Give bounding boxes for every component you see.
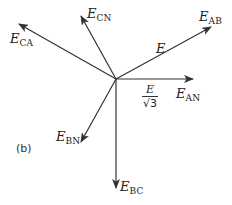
- label-e-bc: EBC: [120, 180, 144, 196]
- label-e-an: EAN: [176, 87, 200, 103]
- fraction-denominator: √3: [142, 97, 158, 109]
- label-e-ca: ECA: [10, 32, 33, 48]
- label-e-cn: ECN: [87, 7, 112, 23]
- label-phase-magnitude: E √3: [142, 84, 158, 109]
- fraction-numerator: E: [142, 84, 158, 97]
- label-e-ab: EAB: [199, 10, 222, 26]
- label-line-magnitude-e: E: [156, 42, 166, 55]
- label-e-bn: EBN: [56, 130, 80, 146]
- phasor-arrow-e-ca: [19, 24, 116, 79]
- phasor-arrow-e-bn: [81, 79, 116, 142]
- panel-label: (b): [16, 142, 32, 155]
